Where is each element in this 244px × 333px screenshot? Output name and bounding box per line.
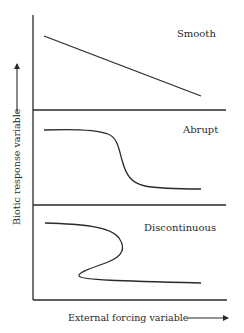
smooth-curve <box>44 36 201 96</box>
regime-shift-diagram: Smooth Abrupt Discontinuous Biotic respo… <box>0 0 244 333</box>
panel-label-discontinuous: Discontinuous <box>144 222 216 233</box>
x-axis-label: External forcing variable <box>68 312 189 323</box>
abrupt-curve <box>44 129 201 189</box>
panel-smooth: Smooth <box>44 28 216 96</box>
panel-label-abrupt: Abrupt <box>182 124 218 135</box>
panel-abrupt: Abrupt <box>44 124 218 189</box>
panel-label-smooth: Smooth <box>177 28 216 39</box>
y-axis-label: Biotic response variable <box>11 108 22 225</box>
panel-discontinuous: Discontinuous <box>45 222 216 283</box>
